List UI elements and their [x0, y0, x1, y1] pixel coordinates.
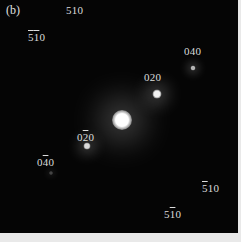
label-51bar0: 510 — [164, 208, 181, 220]
label-510: 510 — [66, 4, 83, 16]
spot-0-20 — [84, 143, 91, 150]
central-beam-spot — [112, 110, 132, 130]
label-04bar0: 040 — [37, 156, 54, 168]
label-5bar1bar0: 510 — [28, 31, 45, 43]
panel-label: (b) — [6, 4, 20, 17]
diffraction-pattern: (b) 510510040020020040510510 — [0, 0, 238, 233]
label-5bar10: 510 — [202, 182, 219, 194]
label-02bar0: 020 — [77, 131, 94, 143]
spot-020 — [153, 90, 162, 99]
spot-040 — [191, 66, 196, 71]
label-020: 020 — [144, 71, 161, 83]
label-040: 040 — [184, 45, 201, 57]
spot-0-40 — [49, 171, 53, 175]
